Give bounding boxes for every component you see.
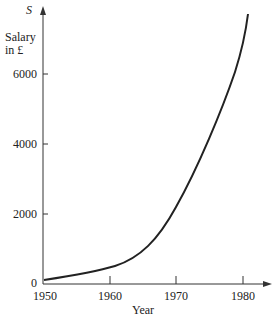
x-axis-title: Year [132, 303, 154, 317]
ytick-label-4000: 4000 [13, 137, 37, 151]
y-axis-title-line2: in £ [5, 43, 23, 57]
ytick-label-0: 0 [31, 276, 37, 290]
xtick-label-1970: 1970 [164, 289, 188, 303]
x-ticks [110, 276, 243, 284]
salary-chart: S Salary in £ 6000 4000 2000 0 1950 1960… [0, 0, 279, 326]
y-axis-arrow-icon [40, 6, 46, 15]
salary-curve [44, 14, 248, 280]
y-axis-symbol: S [26, 3, 32, 17]
x-axis-arrow-icon [263, 281, 272, 287]
xtick-label-1960: 1960 [98, 289, 122, 303]
xtick-label-1980: 1980 [231, 289, 255, 303]
y-axis-title-line1: Salary [5, 30, 36, 44]
ytick-label-6000: 6000 [13, 67, 37, 81]
xtick-label-1950: 1950 [33, 289, 57, 303]
y-ticks [43, 74, 48, 214]
ytick-label-2000: 2000 [13, 207, 37, 221]
